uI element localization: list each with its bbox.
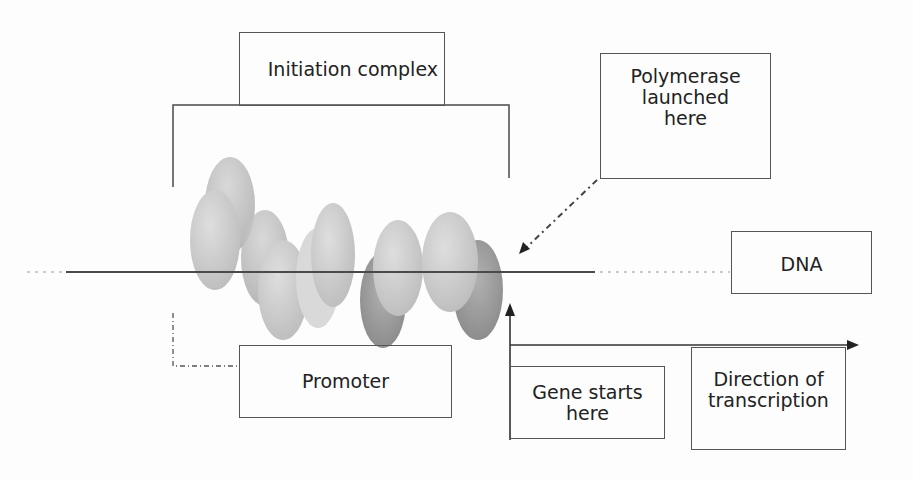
dna-label: DNA [731, 231, 872, 294]
polymerase-launched-label: Polymerase launched here [600, 53, 771, 179]
initiation-complex-label: Initiation complex [239, 32, 445, 106]
arrow-up-icon [505, 303, 515, 316]
protein-subunit-4 [373, 220, 423, 316]
initiation-complex-text: Initiation complex [268, 59, 438, 80]
promoter-label: Promoter [239, 345, 452, 418]
arrow-right-icon [847, 340, 859, 350]
dna-text: DNA [781, 254, 823, 275]
arrowhead-icon [519, 242, 530, 254]
direction-text: Direction of transcription [708, 369, 829, 411]
protein-subunit-3 [311, 203, 355, 307]
promoter-text: Promoter [302, 371, 389, 392]
direction-of-transcription-label: Direction of transcription [691, 347, 846, 450]
gene-starts-text: Gene starts here [532, 382, 642, 424]
gene-starts-label: Gene starts here [510, 366, 665, 439]
protein-subunit-1 [190, 190, 240, 290]
polymerase-launch-arrow [519, 180, 597, 254]
promoter-connector [173, 313, 239, 366]
protein-complex [190, 157, 503, 348]
polymerase-launched-text: Polymerase launched here [630, 66, 740, 129]
protein-subunit-5 [422, 212, 478, 312]
